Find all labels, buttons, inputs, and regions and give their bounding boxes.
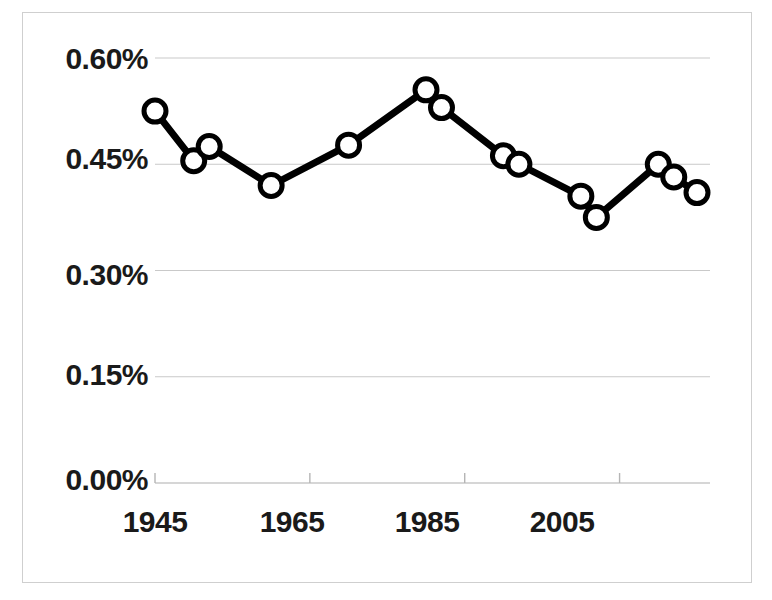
data-point-marker: [585, 206, 607, 228]
x-axis-ticks-group: [155, 473, 620, 483]
x-tick-label-0: 1945: [95, 505, 215, 539]
y-tick-label-4: 0.00%: [26, 463, 148, 497]
data-point-marker: [570, 185, 592, 207]
x-tick-label-2: 1985: [367, 505, 487, 539]
y-tick-label-3: 0.15%: [26, 358, 148, 392]
data-point-marker: [198, 136, 220, 158]
y-tick-label-1: 0.45%: [26, 142, 148, 176]
data-point-marker: [338, 134, 360, 156]
y-tick-label-2: 0.30%: [26, 258, 148, 292]
data-point-marker: [663, 166, 685, 188]
data-line-path: [155, 90, 697, 218]
data-point-markers-group: [144, 79, 708, 229]
data-point-marker: [508, 153, 530, 175]
x-tick-label-1: 1965: [232, 505, 352, 539]
gridlines-group: [155, 58, 710, 483]
x-tick-label-3: 2005: [502, 505, 622, 539]
data-point-marker: [260, 175, 282, 197]
y-tick-label-0: 0.60%: [26, 42, 148, 76]
chart-figure: 0.60% 0.45% 0.30% 0.15% 0.00% 1945 1965 …: [0, 0, 772, 600]
data-point-marker: [144, 100, 166, 122]
data-point-marker: [430, 97, 452, 119]
data-point-marker: [686, 182, 708, 204]
